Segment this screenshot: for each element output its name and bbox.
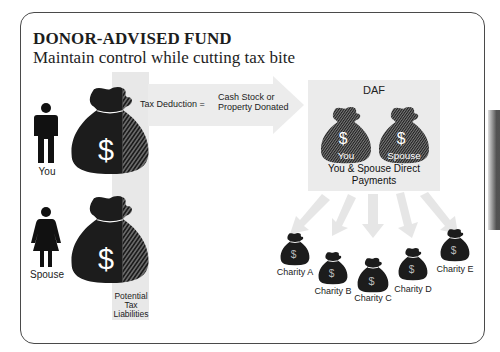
man-icon — [33, 103, 59, 165]
charity-e-bag-icon: $ — [440, 228, 470, 262]
woman-icon — [31, 207, 61, 269]
ptl-line3: Liabilities — [110, 310, 152, 319]
svg-text:$: $ — [369, 275, 375, 287]
page-title: DONOR-ADVISED FUND — [33, 29, 232, 49]
charity-c-label: Charity C — [350, 294, 396, 303]
svg-text:$: $ — [329, 268, 335, 279]
donor-label-spouse: Spouse — [24, 270, 70, 281]
charity-b-bag-icon: $ — [318, 251, 348, 285]
daf-bag-spouse-label: Spouse — [387, 150, 421, 161]
daf-bag-you-label: You — [338, 150, 355, 161]
daf-caption: You & Spouse Direct Payments — [308, 163, 440, 186]
potential-tax-liabilities-label: Potential Tax Liabilities — [110, 292, 152, 319]
charity-a-label: Charity A — [272, 268, 318, 277]
daf-title: DAF — [308, 84, 440, 96]
daf-bag-spouse-icon: $ Spouse — [378, 106, 430, 164]
daf-bag-you-icon: $ You — [320, 106, 372, 164]
charity-c-bag-icon: $ — [357, 257, 389, 293]
svg-text:$: $ — [291, 249, 297, 260]
page-subtitle: Maintain control while cutting tax bite — [33, 48, 295, 68]
svg-text:$: $ — [409, 264, 415, 275]
svg-text:$: $ — [339, 130, 348, 147]
daf-caption-line1: You & Spouse Direct — [308, 163, 440, 175]
charity-a-bag-icon: $ — [280, 232, 310, 266]
money-bag-you-icon: $ — [70, 84, 150, 176]
property-donated-label-line2: Property Donated — [218, 103, 289, 112]
daf-caption-line2: Payments — [308, 175, 440, 187]
dollar-sign: $ — [98, 134, 114, 166]
page-edge-shadow — [488, 110, 500, 230]
svg-text:$: $ — [397, 130, 406, 147]
money-bag-spouse-icon: $ — [70, 193, 150, 285]
svg-text:$: $ — [98, 243, 114, 275]
donor-label-you: You — [30, 167, 64, 178]
charity-e-label: Charity E — [432, 265, 478, 274]
charity-d-label: Charity D — [390, 285, 436, 294]
svg-text:$: $ — [451, 245, 457, 256]
charity-d-bag-icon: $ — [398, 247, 428, 281]
